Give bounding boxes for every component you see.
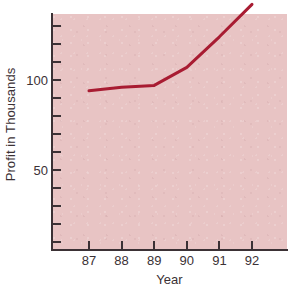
x-axis-title-text: Year <box>156 272 182 287</box>
y-axis-tick <box>53 151 61 153</box>
y-axis-tick <box>53 241 61 243</box>
x-axis-tick <box>153 241 155 249</box>
line-chart-figure: 10050 878889909192 Profit in Thousands Y… <box>0 0 302 292</box>
y-axis-title-text: Profit in Thousands <box>4 68 19 182</box>
plot-area <box>52 14 287 249</box>
x-axis-tick <box>251 241 253 249</box>
y-axis-tick <box>53 205 61 207</box>
x-axis-tick-label: 89 <box>139 254 169 267</box>
plot-background-texture <box>52 14 287 249</box>
x-axis-tick <box>218 241 220 249</box>
y-axis-title: Profit in Thousands <box>2 0 20 249</box>
y-axis-tick <box>53 43 61 45</box>
y-axis-tick <box>53 79 61 81</box>
x-axis-tick-label: 91 <box>204 254 234 267</box>
x-axis-line <box>51 249 288 251</box>
x-axis-tick <box>186 241 188 249</box>
x-axis-tick-label: 92 <box>237 254 267 267</box>
y-axis-line <box>51 13 53 251</box>
x-axis-tick-label: 90 <box>172 254 202 267</box>
y-axis-tick <box>53 223 61 225</box>
y-axis-tick <box>53 169 61 171</box>
y-axis-tick <box>53 187 61 189</box>
x-axis-tick <box>121 241 123 249</box>
y-axis-tick <box>53 97 61 99</box>
x-axis-title: Year <box>52 272 287 287</box>
y-axis-tick <box>53 25 61 27</box>
y-axis-tick <box>53 115 61 117</box>
x-axis-tick <box>88 241 90 249</box>
y-axis-tick <box>53 61 61 63</box>
y-axis-tick <box>53 133 61 135</box>
x-axis-tick-label: 88 <box>107 254 137 267</box>
x-axis-tick-label: 87 <box>74 254 104 267</box>
